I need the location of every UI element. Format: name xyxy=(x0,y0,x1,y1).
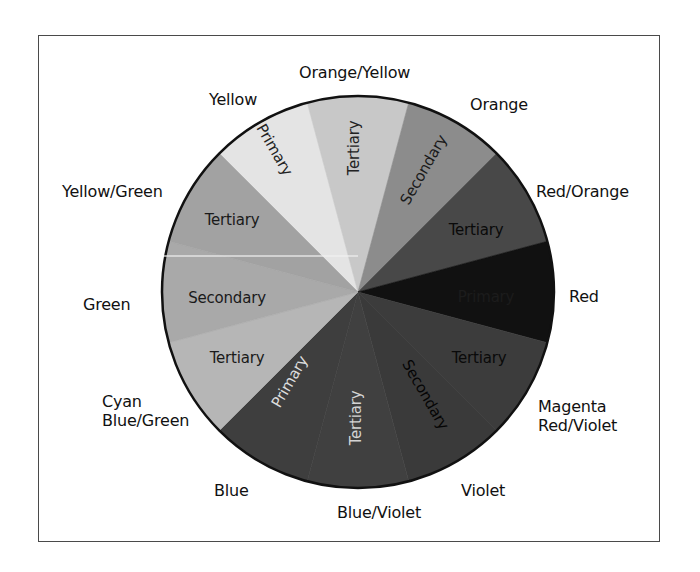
hue-label-violet: Violet xyxy=(461,481,505,500)
hue-label-magenta-red-violet: Magenta Red/Violet xyxy=(538,397,617,435)
hue-label-orange: Orange xyxy=(470,95,528,114)
wedge-category-yellow-green: Tertiary xyxy=(204,211,260,229)
hue-label-red: Red xyxy=(569,287,599,306)
color-wheel: PrimaryTertiarySecondaryTertiaryPrimaryT… xyxy=(0,0,700,572)
hue-label-yellow: Yellow xyxy=(209,90,257,109)
hue-label-blue: Blue xyxy=(214,481,249,500)
wedge-category-red-orange: Tertiary xyxy=(448,221,504,239)
wedge-category-blue-violet: Tertiary xyxy=(347,390,365,446)
hue-label-yellow-green: Yellow/Green xyxy=(62,182,163,201)
hue-label-green: Green xyxy=(83,295,130,314)
hue-label-red-orange: Red/Orange xyxy=(536,182,629,201)
wedge-category-green: Secondary xyxy=(188,289,266,307)
wedge-category-magenta-red-violet: Tertiary xyxy=(451,349,507,367)
hue-label-blue-violet: Blue/Violet xyxy=(337,503,421,522)
hue-label-cyan-blue-green: Cyan Blue/Green xyxy=(102,392,189,430)
hue-label-orange-yellow: Orange/Yellow xyxy=(299,63,410,82)
wedge-category-cyan-blue-green: Tertiary xyxy=(209,349,265,367)
wedge-category-red: Primary xyxy=(458,288,515,306)
wedge-category-orange-yellow: Tertiary xyxy=(345,120,363,176)
